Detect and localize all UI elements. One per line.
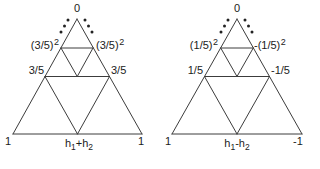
left-level2-left-label: (3/5)2: [18, 39, 59, 53]
subscript-2: 2: [88, 142, 93, 152]
label-base: (3/5): [96, 39, 119, 51]
superscript: 2: [119, 37, 124, 47]
superscript: 2: [54, 37, 59, 47]
right-apex-label: 0: [229, 2, 245, 15]
operator-h2: -h: [235, 137, 245, 149]
right-bottom-function-label: h1-h2: [211, 137, 263, 151]
right-level1-left-label: 1/5: [175, 64, 203, 77]
triangle-geometry: [0, 0, 320, 169]
label-base: (3/5): [31, 39, 54, 51]
label-base: -(1/5): [254, 39, 280, 51]
left-level1-right-label: 3/5: [111, 64, 126, 77]
right-level2-left-label: (1/5)2: [177, 39, 218, 53]
subscript-1: 1: [71, 142, 76, 152]
operator-h2: +h: [76, 137, 89, 149]
left-level1-left-label: 3/5: [16, 64, 44, 77]
left-corner-right-label: 1: [136, 135, 146, 148]
left-corner-left-label: 1: [3, 135, 13, 148]
left-apex-label: 0: [69, 2, 85, 15]
subscript-1: 1: [230, 142, 235, 152]
label-base: (1/5): [190, 39, 213, 51]
superscript: 2: [213, 37, 218, 47]
right-level2-right-label: -(1/5)2: [254, 39, 286, 53]
right-level1-right-label: -1/5: [271, 64, 290, 77]
right-corner-right-label: -1: [291, 135, 305, 148]
superscript: 2: [281, 37, 286, 47]
left-level2-right-label: (3/5)2: [96, 39, 124, 53]
sierpinski-harmonic-figure: 0 (3/5)2 (3/5)2 3/5 3/5 1 1 h1+h2 0 (1/5…: [0, 0, 320, 169]
right-corner-left-label: 1: [163, 135, 173, 148]
subscript-2: 2: [245, 142, 250, 152]
left-bottom-function-label: h1+h2: [53, 137, 105, 151]
